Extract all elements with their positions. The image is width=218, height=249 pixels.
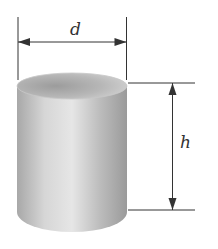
cylinder-body (17, 86, 127, 232)
cylinder (17, 73, 127, 232)
arrowhead-up-icon (169, 83, 177, 95)
diameter-label: d (70, 19, 81, 39)
arrowhead-down-icon (169, 198, 177, 210)
height-label: h (180, 132, 191, 152)
arrowhead-left-icon (18, 38, 30, 46)
cylinder-diagram: d h (0, 0, 218, 249)
arrowhead-right-icon (115, 38, 127, 46)
